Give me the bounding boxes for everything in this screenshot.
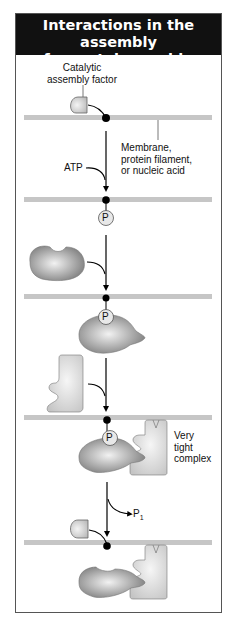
- tight-complex-line-2: tight: [174, 442, 211, 454]
- release-arrow: [107, 482, 130, 534]
- membrane-label-line-3: or nucleic acid: [121, 165, 192, 177]
- tight-complex-line-3: complex: [174, 453, 211, 465]
- membrane-label-line-2: protein filament,: [121, 154, 192, 166]
- assembled-machine-stage5: [79, 545, 167, 599]
- released-phosphate-symbol: P: [133, 508, 140, 519]
- phosphate-label-stage4: P: [106, 432, 113, 444]
- atp-label: ATP: [64, 162, 83, 174]
- assembly-diagram: [0, 0, 229, 625]
- light-protein-incoming: [47, 355, 83, 412]
- atp-arrow: [86, 131, 106, 189]
- dark-protein-incoming: [30, 246, 85, 281]
- bound-dark-protein-stage3: [79, 295, 145, 354]
- catalytic-factor-label: Catalytic assembly factor: [46, 62, 118, 85]
- phosphate-label-stage3: P: [102, 311, 109, 323]
- membrane-label-line-1: Membrane,: [121, 142, 192, 154]
- released-phosphate-subscript: 1: [140, 514, 144, 521]
- assembly-arrow-2: [87, 235, 106, 288]
- tight-complex-label: Very tight complex: [174, 430, 211, 465]
- assembly-arrow-3: [88, 358, 106, 409]
- catalytic-factor-line-2: assembly factor: [46, 74, 118, 86]
- released-phosphate-label: P1: [133, 508, 144, 524]
- membrane-label: Membrane, protein filament, or nucleic a…: [121, 142, 192, 177]
- phosphate-label-stage2: P: [102, 212, 109, 224]
- tight-complex-stage4: [79, 416, 167, 475]
- tight-complex-line-1: Very: [174, 430, 211, 442]
- catalytic-factor-stage5: [71, 520, 111, 550]
- catalytic-factor-line-1: Catalytic: [46, 62, 118, 74]
